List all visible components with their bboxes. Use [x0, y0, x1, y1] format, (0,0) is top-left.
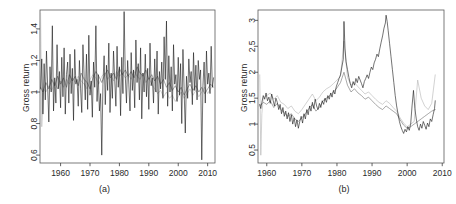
x-tick-label-a-5: 2010 — [198, 168, 217, 178]
x-tick-label-b-5: 2010 — [433, 168, 452, 178]
y-tick-label-a-2: 1 — [29, 89, 39, 94]
y-tick-label-b-1: 1 — [247, 121, 257, 126]
panel-a: Gross return 0.60.811.21.419601970198019… — [0, 0, 225, 204]
x-tick-label-b-0: 1960 — [257, 168, 276, 178]
y-tick-label-b-2: 1.5 — [247, 92, 257, 104]
x-tick-label-a-1: 1970 — [81, 168, 100, 178]
panel-a-caption: (a) — [0, 184, 217, 194]
y-tick-label-b-4: 2.5 — [247, 40, 257, 52]
y-tick-label-b-3: 2 — [247, 70, 257, 75]
panel-a-plot: 0.60.811.21.4196019701980199020002010 — [0, 0, 225, 204]
panel-b: Gross return 0.511.522.53196019701980199… — [225, 0, 451, 204]
series-line-b-series-light — [260, 41, 435, 155]
y-tick-label-b-5: 3 — [247, 18, 257, 23]
series-line-b-series-mid — [260, 72, 435, 128]
y-tick-label-a-0: 0.6 — [29, 149, 39, 161]
y-tick-label-a-3: 1.2 — [29, 54, 39, 66]
x-tick-label-a-0: 1960 — [51, 168, 70, 178]
panel-b-plot: 0.511.522.53196019701980199020002010 — [225, 0, 451, 204]
x-tick-label-a-2: 1980 — [110, 168, 129, 178]
y-tick-label-a-1: 0.8 — [29, 117, 39, 129]
series-line-a-series-light — [41, 13, 214, 127]
x-tick-label-b-3: 1990 — [363, 168, 382, 178]
panel-b-caption: (b) — [231, 184, 456, 194]
x-tick-label-b-2: 1980 — [328, 168, 347, 178]
y-tick-label-b-0: 0.5 — [247, 144, 257, 156]
x-tick-label-a-3: 1990 — [139, 168, 158, 178]
x-tick-label-a-4: 2000 — [169, 168, 188, 178]
x-tick-label-b-4: 2000 — [398, 168, 417, 178]
y-tick-label-a-4: 1.4 — [29, 23, 39, 35]
x-tick-label-b-1: 1970 — [292, 168, 311, 178]
